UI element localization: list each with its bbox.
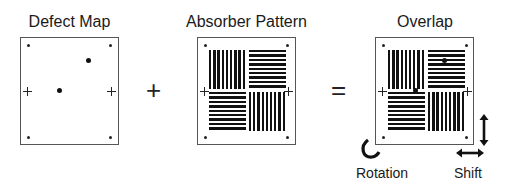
rotation-arrow-icon — [360, 138, 382, 162]
absorber-pattern-panel — [197, 37, 296, 145]
vertical-grating-top-left — [388, 50, 425, 89]
overlap-title: Overlap — [375, 12, 475, 32]
plus-operator: + — [146, 77, 161, 103]
vertical-grating-top-left — [209, 50, 246, 89]
vertical-shift-arrow-icon — [479, 114, 489, 146]
horizontal-shift-arrow-icon — [456, 148, 484, 158]
defect-dot — [442, 58, 447, 63]
alignment-cross-icon — [107, 87, 116, 96]
defect-map-panel — [20, 37, 119, 145]
fiducial-mark-icon — [106, 41, 115, 50]
absorber-pattern-title: Absorber Pattern — [172, 12, 321, 32]
defect-dot — [413, 88, 418, 93]
vertical-grating-bottom-right — [428, 92, 465, 131]
fiducial-mark-icon — [24, 133, 33, 142]
horizontal-grating-top-right — [249, 50, 286, 89]
horizontal-grating-bottom-left — [388, 92, 425, 131]
fiducial-mark-icon — [283, 41, 292, 50]
defect-dot — [57, 88, 62, 93]
defect-dot — [86, 58, 91, 63]
rotation-label: Rotation — [356, 165, 408, 181]
alignment-cross-icon — [378, 87, 387, 96]
defect-map-title: Defect Map — [20, 12, 119, 32]
fiducial-mark-icon — [24, 41, 33, 50]
fiducial-mark-icon — [462, 133, 471, 142]
equals-operator: = — [331, 77, 346, 103]
horizontal-grating-bottom-left — [209, 92, 246, 131]
fiducial-mark-icon — [462, 41, 471, 50]
fiducial-mark-icon — [379, 41, 388, 50]
vertical-grating-bottom-right — [249, 92, 286, 131]
shift-label: Shift — [454, 165, 482, 181]
fiducial-mark-icon — [106, 133, 115, 142]
overlap-panel — [375, 37, 474, 145]
alignment-cross-icon — [200, 87, 209, 96]
horizontal-grating-top-right — [428, 50, 465, 89]
alignment-cross-icon — [23, 87, 32, 96]
fiducial-mark-icon — [201, 133, 210, 142]
fiducial-mark-icon — [283, 133, 292, 142]
fiducial-mark-icon — [201, 41, 210, 50]
